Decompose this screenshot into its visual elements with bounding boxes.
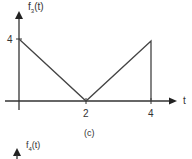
figure-caption: (c) — [84, 128, 95, 138]
y-axis-label: f3(t) — [28, 1, 44, 14]
x-axis-arrow-icon — [169, 98, 177, 105]
next-plot-y-axis-arrow-icon — [13, 148, 21, 156]
y-tick-label-4: 4 — [7, 34, 13, 45]
next-plot-label: f4(t) — [26, 140, 40, 152]
signal-line-f3 — [19, 39, 151, 101]
signal-plot: f3(t) 4 2 4 t (c) f4(t) — [0, 0, 192, 159]
y-axis-arrow-icon — [15, 11, 23, 19]
x-tick-label-4: 4 — [148, 108, 154, 119]
x-tick-label-2: 2 — [83, 108, 89, 119]
x-axis-label: t — [183, 95, 186, 106]
